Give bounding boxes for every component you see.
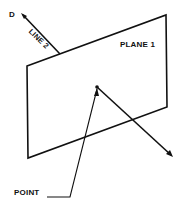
label-d: D — [9, 10, 15, 19]
intersecting-line — [97, 87, 171, 155]
label-plane-1: PLANE 1 — [120, 40, 155, 49]
label-point: POINT — [14, 188, 39, 197]
point-leader-line — [47, 89, 97, 197]
